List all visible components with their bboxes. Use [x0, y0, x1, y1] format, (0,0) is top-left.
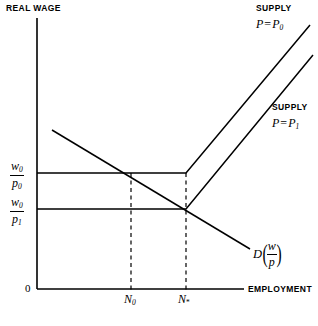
fraction-denominator: p1 — [10, 212, 24, 226]
x-axis-title: EMPLOYMENT — [248, 285, 312, 294]
demand-curve-label: D ( w p ) — [253, 240, 281, 268]
fraction-w0-p0: w0 p0 — [10, 160, 24, 190]
fraction-numerator: w — [267, 240, 277, 253]
y-tick-label-w0-p1: w0 p1 — [10, 196, 24, 226]
y-tick-label-w0-p0: w0 p0 — [10, 160, 24, 190]
demand-open-paren: ( — [262, 244, 267, 264]
supply-p1-title: SUPPLY — [272, 103, 308, 112]
real-wage-employment-diagram: REAL WAGE EMPLOYMENT 0 w0 p0 w0 p1 N0 N*… — [0, 0, 318, 326]
x-tick-label-nstar: N* — [178, 293, 190, 306]
demand-d-letter: D — [253, 248, 262, 261]
supply-p0-equation: P=P0 — [256, 18, 283, 31]
plot-canvas — [0, 0, 318, 326]
demand-curve — [52, 130, 250, 249]
origin-label: 0 — [25, 283, 31, 294]
fraction-numerator: w0 — [10, 160, 24, 174]
demand-close-paren: ) — [276, 244, 281, 264]
supply-p1-equation: P=P1 — [272, 117, 299, 130]
fraction-numerator: w0 — [10, 196, 24, 210]
supply-curve-p1 — [37, 55, 313, 209]
x-tick-label-n0: N0 — [124, 293, 136, 306]
supply-p0-title: SUPPLY — [256, 4, 292, 13]
y-axis-title: REAL WAGE — [6, 4, 61, 13]
supply-curve-p0 — [37, 25, 310, 173]
fraction-denominator: p — [267, 255, 277, 268]
fraction-w0-p1: w0 p1 — [10, 196, 24, 226]
demand-label-group: D ( w p ) — [253, 240, 281, 268]
fraction-w-p: w p — [267, 240, 277, 268]
fraction-denominator: p0 — [10, 176, 24, 190]
